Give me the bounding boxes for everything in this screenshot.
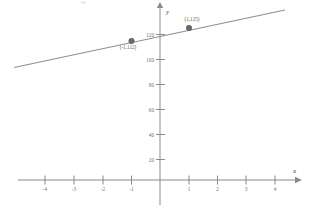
x-tick-label: 3 — [245, 186, 248, 192]
x-tick-label: -3 — [72, 186, 77, 192]
y-axis-arrow-icon — [157, 2, 163, 8]
x-tick-label: -1 — [129, 186, 134, 192]
y-tick-label: 100 — [146, 57, 154, 63]
y-tick-label: 20 — [149, 157, 155, 163]
y-tick-label: 80 — [149, 82, 155, 88]
x-tick-label: 1 — [188, 186, 191, 192]
y-tick-label: 120 — [146, 32, 154, 38]
x-axis-label: x — [292, 167, 297, 175]
x-tick-label: 2 — [216, 186, 219, 192]
chart-canvas: -4 -3 -2 -1 1 2 3 4 20 40 60 80 100 120 … — [0, 0, 311, 214]
y-axis-label: y — [165, 8, 170, 16]
data-point-label: (1,125) — [184, 16, 199, 23]
data-point-label: (-1,112) — [120, 44, 137, 51]
y-tick-label: 60 — [149, 107, 155, 113]
line-chart: -4 -3 -2 -1 1 2 3 4 20 40 60 80 100 120 … — [0, 0, 311, 214]
data-point-marker[interactable] — [186, 25, 191, 30]
artifact-smudge — [81, 2, 86, 4]
data-point-marker[interactable] — [129, 38, 134, 43]
y-tick-label: 40 — [149, 132, 155, 138]
x-axis-arrow-icon — [295, 177, 302, 183]
x-tick-label: -4 — [43, 186, 48, 192]
x-tick-label: -2 — [101, 186, 106, 192]
x-tick-label: 4 — [274, 186, 277, 192]
